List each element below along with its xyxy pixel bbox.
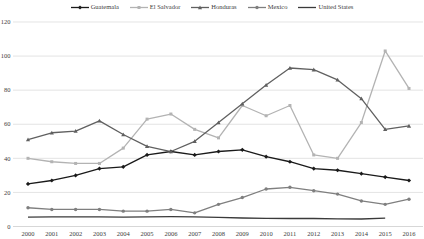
y-tick-label-20: 20 [4, 189, 11, 196]
El Salvador-marker [137, 6, 140, 9]
Mexico-marker [360, 199, 363, 202]
y-tick-label-120: 120 [1, 18, 11, 25]
x-tick-label-2000: 2000 [22, 230, 35, 237]
series-guatemala [26, 148, 411, 186]
series-united-states [28, 217, 385, 219]
x-tick-label-2010: 2010 [260, 230, 273, 237]
Guatemala-marker [335, 168, 339, 172]
Mexico-marker [383, 203, 386, 206]
Guatemala-marker [288, 160, 292, 164]
El Salvador-marker [288, 104, 291, 107]
legend-item-honduras: Honduras [191, 4, 236, 11]
El Salvador-marker [408, 87, 411, 90]
chart-plot-area: 0204060801001202000200120022003200420052… [0, 0, 424, 239]
legend-label: Honduras [211, 4, 236, 11]
El Salvador-marker [74, 162, 77, 165]
Mexico-marker [288, 186, 291, 189]
Mexico-marker [217, 203, 220, 206]
Mexico-marker [241, 196, 244, 199]
x-tick-label-2003: 2003 [93, 230, 106, 237]
x-tick-label-2004: 2004 [117, 230, 131, 237]
Guatemala-marker [407, 178, 411, 182]
homicide-rate-line-chart: GuatemalaEl SalvadorHondurasMexicoUnited… [0, 0, 424, 239]
El Salvador-line [28, 51, 409, 163]
x-tick-label-2008: 2008 [212, 230, 225, 237]
Mexico-marker [255, 5, 258, 8]
Mexico-marker [50, 208, 53, 211]
Guatemala-marker [97, 166, 101, 170]
Mexico-line [28, 187, 409, 213]
Guatemala-marker [359, 172, 363, 176]
Mexico-marker [193, 211, 196, 214]
Mexico-marker [312, 189, 315, 192]
y-tick-label-40: 40 [4, 155, 11, 162]
x-tick-label-2012: 2012 [307, 230, 320, 237]
Honduras-marker [97, 119, 101, 123]
United States-line [28, 217, 385, 219]
Mexico-marker [169, 208, 172, 211]
x-tick-label-2001: 2001 [45, 230, 58, 237]
Guatemala-marker [312, 166, 316, 170]
El Salvador-marker [27, 157, 30, 160]
El Salvador-marker [193, 128, 196, 131]
Mexico-legend-key-icon [248, 4, 266, 11]
Guatemala-line [28, 150, 409, 184]
El Salvador-marker [146, 118, 149, 121]
Guatemala-marker [78, 5, 82, 9]
Guatemala-marker [121, 165, 125, 169]
Mexico-marker [264, 187, 267, 190]
x-tick-label-2007: 2007 [188, 230, 202, 237]
United States-legend-key-icon [298, 4, 316, 11]
Guatemala-marker [26, 182, 30, 186]
chart-legend: GuatemalaEl SalvadorHondurasMexicoUnited… [0, 1, 424, 13]
El Salvador-marker [122, 147, 125, 150]
El Salvador-marker [50, 160, 53, 163]
Guatemala-marker [145, 153, 149, 157]
Honduras-legend-key-icon [191, 4, 209, 11]
El Salvador-legend-key-icon [130, 4, 148, 11]
Guatemala-marker [50, 178, 54, 182]
El Salvador-marker [336, 157, 339, 160]
El Salvador-marker [384, 49, 387, 52]
legend-item-united-states: United States [298, 4, 353, 11]
El Salvador-marker [169, 113, 172, 116]
Mexico-marker [74, 208, 77, 211]
series-el-salvador [27, 49, 411, 164]
y-tick-label-100: 100 [1, 52, 11, 59]
Mexico-marker [26, 206, 29, 209]
x-tick-label-2002: 2002 [69, 230, 82, 237]
El Salvador-marker [265, 114, 268, 117]
Mexico-marker [145, 209, 148, 212]
Guatemala-marker [74, 173, 78, 177]
Mexico-marker [122, 209, 125, 212]
x-tick-label-2014: 2014 [355, 230, 369, 237]
x-tick-label-2015: 2015 [379, 230, 392, 237]
El Salvador-marker [312, 153, 315, 156]
Mexico-marker [98, 208, 101, 211]
x-tick-label-2006: 2006 [164, 230, 178, 237]
y-tick-label-80: 80 [4, 86, 11, 93]
Mexico-marker [336, 192, 339, 195]
legend-label: United States [318, 4, 353, 11]
series-mexico [26, 186, 410, 215]
legend-item-guatemala: Guatemala [71, 4, 119, 11]
series-honduras [26, 66, 411, 153]
legend-item-mexico: Mexico [248, 4, 288, 11]
Guatemala-marker [193, 153, 197, 157]
y-tick-label-60: 60 [4, 120, 11, 127]
El Salvador-marker [360, 121, 363, 124]
legend-label: Guatemala [91, 4, 119, 11]
x-tick-label-2016: 2016 [403, 230, 417, 237]
Guatemala-marker [383, 175, 387, 179]
Guatemala-legend-key-icon [71, 4, 89, 11]
Guatemala-marker [216, 149, 220, 153]
x-tick-label-2011: 2011 [284, 230, 297, 237]
El Salvador-marker [98, 162, 101, 165]
El Salvador-marker [217, 136, 220, 139]
legend-label: Mexico [268, 4, 288, 11]
legend-item-el-salvador: El Salvador [130, 4, 181, 11]
Guatemala-marker [240, 148, 244, 152]
x-tick-label-2013: 2013 [331, 230, 344, 237]
y-tick-label-0: 0 [7, 223, 10, 230]
legend-label: El Salvador [150, 4, 181, 11]
